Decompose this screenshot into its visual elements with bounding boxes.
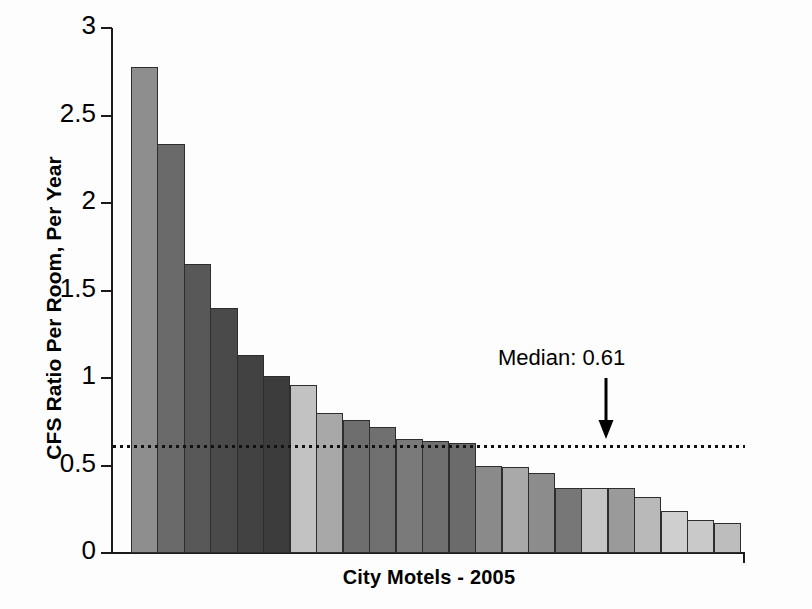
y-axis-tick-label: 0.5: [48, 450, 96, 476]
y-axis-tick-mark: [101, 202, 112, 204]
bar: [131, 67, 158, 554]
bar: [714, 523, 741, 553]
median-annotation-label: Median: 0.61: [498, 345, 625, 371]
median-reference-line: [113, 445, 745, 448]
y-axis-tick-label: 0: [48, 537, 96, 563]
y-axis-tick-label: 2.5: [48, 100, 96, 126]
y-axis-tick-labels: 00.511.522.53: [44, 0, 96, 609]
y-axis-tick-label: 1: [48, 362, 96, 388]
bar: [263, 376, 290, 553]
bar: [157, 144, 184, 554]
bar: [184, 264, 211, 553]
bar: [316, 413, 343, 553]
y-axis-tick-mark: [101, 552, 112, 554]
y-axis-tick-label: 3: [48, 12, 96, 38]
bar: [396, 439, 423, 553]
bar: [528, 473, 555, 554]
plot-area: [113, 28, 745, 553]
y-axis-tick-mark: [101, 465, 112, 467]
y-axis-tick-label: 1.5: [48, 275, 96, 301]
y-axis-tick-mark: [101, 377, 112, 379]
bar: [581, 488, 608, 553]
bar: [475, 466, 502, 554]
y-axis-tick-label: 2: [48, 187, 96, 213]
bar: [290, 385, 317, 553]
y-axis-tick-mark: [101, 115, 112, 117]
x-axis-title: City Motels - 2005: [113, 566, 745, 589]
bar: [210, 308, 237, 553]
bar: [608, 488, 635, 553]
bar: [237, 355, 264, 553]
bar: [502, 467, 529, 553]
y-axis-tick-mark: [101, 27, 112, 29]
x-axis-end-cap: [743, 552, 745, 563]
bar: [687, 520, 714, 553]
median-arrow-icon: [597, 378, 615, 440]
bar: [634, 497, 661, 553]
bar: [449, 443, 476, 553]
bar: [343, 420, 370, 553]
y-axis-tick-mark: [101, 290, 112, 292]
bar: [422, 441, 449, 553]
bar-chart: CFS Ratio Per Room, Per Year 00.511.522.…: [0, 0, 812, 609]
bar: [661, 511, 688, 553]
bar: [555, 488, 582, 553]
